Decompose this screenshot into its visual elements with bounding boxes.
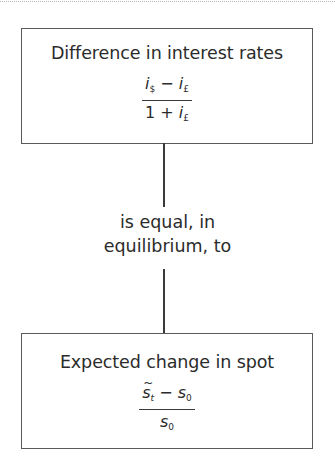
connector-line-top <box>163 143 165 207</box>
formula-denominator: s0 <box>139 412 195 437</box>
constant-one: 1 <box>145 103 155 122</box>
fraction-bar <box>139 409 195 410</box>
connector-label-line-1: is equal, in <box>0 210 335 234</box>
sub-t: t <box>151 393 155 403</box>
sub-pound: £ <box>183 113 189 123</box>
interest-rate-difference-title: Difference in interest rates <box>22 42 312 64</box>
sub-pound: £ <box>183 84 189 94</box>
minus-operator: − <box>160 74 173 93</box>
formula-denominator: 1 + i£ <box>142 103 192 128</box>
expected-spot-change-box: Expected change in spot st − s0 s0 <box>21 333 313 449</box>
expected-spot-change-formula: st − s0 s0 <box>139 383 195 437</box>
formula-numerator: st − s0 <box>139 383 195 408</box>
connector-label: is equal, in equilibrium, to <box>0 210 335 258</box>
sub-zero: 0 <box>168 422 174 432</box>
connector-label-line-2: equilibrium, to <box>0 234 335 258</box>
expected-spot-change-title: Expected change in spot <box>22 351 312 373</box>
interest-rate-difference-box: Difference in interest rates i$ − i£ 1 +… <box>21 28 313 144</box>
var-s: s <box>178 383 186 402</box>
interest-rate-difference-formula: i$ − i£ 1 + i£ <box>142 74 192 128</box>
minus-operator: − <box>159 383 172 402</box>
fraction-bar <box>142 100 192 101</box>
plus-operator: + <box>160 103 173 122</box>
connector-line-bottom <box>163 269 165 333</box>
sub-dollar: $ <box>149 84 155 94</box>
formula-numerator: i$ − i£ <box>142 74 192 99</box>
page-top-dotted-rule <box>0 1 335 2</box>
sub-zero: 0 <box>186 393 192 403</box>
var-s-tilde: s <box>142 383 150 402</box>
